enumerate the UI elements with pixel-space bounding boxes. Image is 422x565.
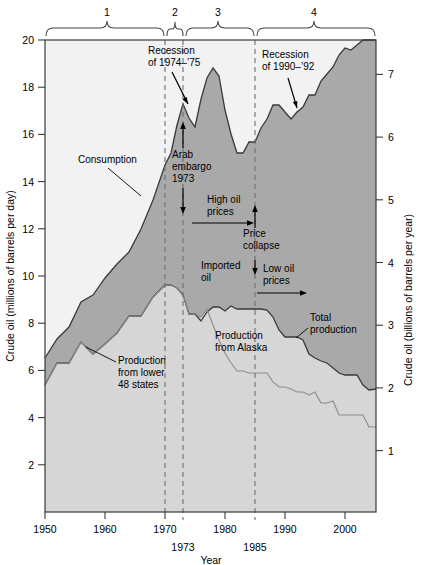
recession-1974-label-line2: of 1974–’75: [148, 57, 201, 68]
production-lower48-label-line3: 48 states: [118, 379, 159, 390]
oil-production-consumption-chart: 20 18 16 14 12 10 8 6 4 2 Crude oil (mil…: [0, 0, 422, 565]
arab-embargo-label-line2: embargo: [172, 161, 212, 172]
x-tick-label-1985: 1985: [243, 541, 267, 553]
r-tick-label-3: 3: [388, 319, 394, 331]
chart-svg: 20 18 16 14 12 10 8 6 4 2 Crude oil (mil…: [0, 0, 422, 565]
production-lower48-label-line2: from lower: [118, 367, 165, 378]
arab-embargo-label-line3: 1973: [172, 173, 195, 184]
y-tick-label-14: 14: [22, 176, 34, 188]
bracket-label-3: 3: [215, 6, 221, 18]
low-oil-prices-label-line1: Low oil: [263, 263, 294, 274]
recession-1974-label-line1: Recession: [148, 45, 195, 56]
period-brackets: 1 2 3 4: [46, 6, 375, 36]
x-tick-label-1990: 1990: [273, 523, 297, 535]
price-collapse-label-line2: collapse: [243, 240, 280, 251]
imported-oil-label-line2: oil: [201, 272, 211, 283]
x-tick-label-1960: 1960: [93, 523, 117, 535]
y-axis-left-title: Crude oil (millions of barrels per day): [4, 190, 16, 362]
bracket-3: [186, 21, 254, 36]
consumption-label: Consumption: [78, 154, 137, 165]
x-tick-label-1950: 1950: [33, 523, 57, 535]
y-tick-label-6: 6: [28, 364, 34, 376]
r-tick-label-6: 6: [388, 131, 394, 143]
r-tick-label-7: 7: [388, 68, 394, 80]
total-production-label-line1: Total: [310, 312, 331, 323]
r-tick-label-2: 2: [388, 382, 394, 394]
bracket-label-2: 2: [172, 6, 178, 18]
y-tick-label-4: 4: [28, 412, 34, 424]
x-tick-label-1980: 1980: [213, 523, 237, 535]
r-tick-label-4: 4: [388, 257, 394, 269]
bracket-label-4: 4: [311, 6, 317, 18]
production-alaska-label-line2: from Alaska: [215, 342, 268, 353]
y-tick-label-8: 8: [28, 317, 34, 329]
x-axis: 1950 1960 1970 1980 1990 2000 1973 1985 …: [33, 512, 357, 565]
total-production-label-line2: production: [310, 324, 357, 335]
x-axis-title: Year: [200, 554, 222, 565]
y-tick-label-18: 18: [22, 81, 34, 93]
imported-oil-label-line1: Imported: [201, 260, 240, 271]
y-tick-label-16: 16: [22, 128, 34, 140]
bracket-label-1: 1: [104, 6, 110, 18]
y-tick-label-12: 12: [22, 223, 34, 235]
bracket-4: [257, 21, 375, 36]
y-tick-label-10: 10: [22, 270, 34, 282]
x-tick-label-1970: 1970: [153, 523, 177, 535]
y-tick-label-2: 2: [28, 459, 34, 471]
y-tick-label-20: 20: [22, 34, 34, 46]
low-oil-prices-label-line2: prices: [263, 275, 290, 286]
production-alaska-label-line1: Production: [215, 330, 263, 341]
recession-1990-label-line2: of 1990–’92: [262, 61, 315, 72]
r-tick-label-5: 5: [388, 194, 394, 206]
y-axis-left: 20 18 16 14 12 10 8 6 4 2 Crude oil (mil…: [4, 34, 45, 471]
x-tick-label-2000: 2000: [333, 523, 357, 535]
price-collapse-label-line1: Price: [243, 228, 266, 239]
r-tick-label-1: 1: [388, 445, 394, 457]
arab-embargo-label-line1: Arab: [172, 149, 194, 160]
recession-1990-label-line1: Recession: [262, 49, 309, 60]
high-oil-prices-label-line1: High oil: [207, 194, 240, 205]
x-tick-label-1973: 1973: [171, 541, 195, 553]
bracket-2: [167, 22, 183, 36]
y-axis-right: 7 6 5 4 3 2 1 Crude oil (billions of bar…: [376, 68, 414, 456]
bracket-1: [46, 21, 164, 36]
y-axis-right-title: Crude oil (billions of barrels per year): [402, 214, 414, 386]
high-oil-prices-label-line2: prices: [207, 206, 234, 217]
production-lower48-label-line1: Production: [118, 355, 166, 366]
